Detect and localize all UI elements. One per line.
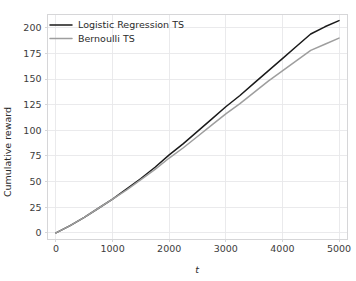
- legend-label-2: Bernoulli TS: [78, 33, 135, 44]
- cumulative-reward-chart: 0255075100125150175200 01000200030004000…: [0, 0, 356, 281]
- x-tick-label: 0: [53, 243, 59, 254]
- x-tick-label: 2000: [157, 243, 181, 254]
- y-tick-label: 150: [23, 73, 41, 84]
- y-tick-label: 25: [29, 202, 41, 213]
- y-tick-label: 100: [23, 125, 41, 136]
- y-tick-label: 200: [23, 22, 41, 33]
- x-tick-label: 3000: [214, 243, 238, 254]
- x-tick-label: 1000: [101, 243, 125, 254]
- legend-label-1: Logistic Regression TS: [78, 19, 184, 30]
- y-tick-label: 0: [35, 227, 41, 238]
- figure-canvas: ▪▣▪▫▪▤ · ▪▪▫▣▪▪ ▫▪ ▪ ▫ ▪▪ ▫▪▫▪▫▪ 0255075…: [0, 0, 356, 281]
- x-tick-label: 5000: [327, 243, 351, 254]
- y-tick-label: 75: [29, 150, 41, 161]
- y-tick-label: 125: [23, 99, 41, 110]
- y-tick-label: 175: [23, 48, 41, 59]
- y-tick-label: 50: [29, 176, 41, 187]
- y-axis-title: Cumulative reward: [2, 107, 13, 197]
- x-tick-label: 4000: [270, 243, 294, 254]
